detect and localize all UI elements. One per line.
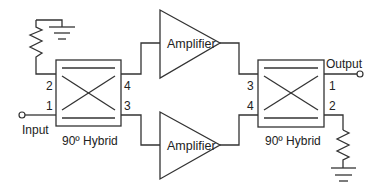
top-amplifier-label: Amplifier bbox=[167, 37, 216, 51]
right-hybrid-port-3: 3 bbox=[247, 79, 254, 93]
wire-bottom-amp-to-right-hybrid bbox=[220, 115, 258, 145]
right-hybrid-label: 90º Hybrid bbox=[265, 134, 321, 148]
input-label: Input bbox=[22, 123, 49, 137]
left-hybrid-port-3: 3 bbox=[124, 99, 131, 113]
left-termination-resistor bbox=[30, 20, 62, 74]
left-hybrid-label: 90º Hybrid bbox=[62, 134, 118, 148]
right-hybrid-port-1: 1 bbox=[329, 79, 336, 93]
right-hybrid-coupler bbox=[258, 60, 324, 127]
left-hybrid-port-4: 4 bbox=[124, 79, 131, 93]
right-termination-resistor bbox=[324, 115, 349, 168]
output-label: Output bbox=[326, 57, 363, 71]
left-hybrid-port-2: 2 bbox=[46, 79, 53, 93]
left-hybrid-coupler bbox=[56, 60, 121, 126]
right-hybrid-port-2: 2 bbox=[329, 99, 336, 113]
wire-left-hybrid-to-bottom-amp bbox=[121, 115, 160, 145]
output-terminal bbox=[324, 71, 363, 77]
right-hybrid-port-4: 4 bbox=[247, 99, 254, 113]
wire-left-hybrid-to-top-amp bbox=[121, 43, 160, 74]
wire-top-amp-to-right-hybrid bbox=[220, 43, 258, 74]
right-ground-icon bbox=[331, 168, 356, 181]
bottom-amplifier-label: Amplifier bbox=[167, 139, 216, 153]
left-hybrid-port-1: 1 bbox=[46, 99, 53, 113]
balanced-amplifier-diagram: Input 2 1 4 3 90º Hybrid Amplifier Ampli… bbox=[0, 0, 381, 195]
left-ground-icon bbox=[49, 27, 75, 39]
